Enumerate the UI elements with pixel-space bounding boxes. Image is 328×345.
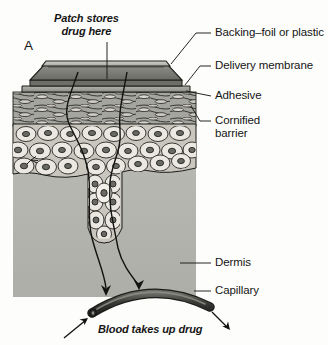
cornified-barrier-layer	[13, 92, 196, 126]
label-cornified-barrier: Cornified barrier	[215, 114, 295, 139]
label-backing: Backing–foil or plastic	[215, 26, 324, 39]
figure-panel: Patch stores drug here A Backing–foil or…	[0, 0, 328, 345]
label-delivery-membrane: Delivery membrane	[215, 59, 313, 72]
label-adhesive: Adhesive	[215, 89, 262, 102]
leader-membrane	[185, 66, 211, 85]
adhesive-layer	[22, 86, 190, 92]
label-dermis: Dermis	[215, 256, 251, 269]
annotation-patch-stores: Patch stores drug here	[54, 12, 119, 37]
panel-label-a: A	[24, 40, 33, 53]
patch-backing	[42, 61, 170, 66]
leader-backing	[171, 33, 211, 64]
transdermal-patch	[22, 61, 190, 92]
annotation-blood-uptake: Blood takes up drug	[98, 323, 202, 336]
label-capillary: Capillary	[215, 284, 259, 297]
delivery-membrane	[30, 80, 182, 86]
transdermal-patch-diagram	[0, 0, 328, 345]
